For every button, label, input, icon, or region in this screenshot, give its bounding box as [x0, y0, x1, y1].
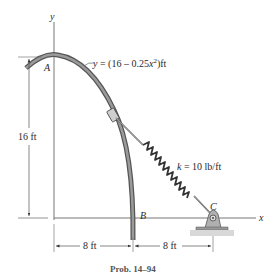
problem-diagram: y x A y = (16 – 0.25x2)ft 16 ft k = 10 l…: [0, 0, 270, 280]
point-b-label: B: [140, 210, 146, 221]
curved-rod-highlight: [26, 55, 133, 240]
y-axis-label: y: [49, 11, 55, 22]
x-axis-label: x: [258, 212, 264, 223]
spring-constant-label: k = 10 lb/ft: [177, 161, 221, 172]
dim-right-label: 8 ft: [163, 240, 177, 251]
dim-height-label: 16 ft: [18, 131, 37, 142]
pin-c-center: [212, 217, 214, 219]
caption: Prob. 14–94: [110, 264, 156, 274]
curved-rod: [26, 55, 133, 240]
support-base: [196, 227, 228, 230]
point-a-label: A: [43, 62, 51, 73]
dim-left-label: 8 ft: [83, 240, 97, 251]
curve-equation: y = (16 – 0.25x2)ft: [92, 57, 167, 70]
point-c-label: C: [210, 201, 217, 212]
ground-hatch: [190, 230, 234, 236]
